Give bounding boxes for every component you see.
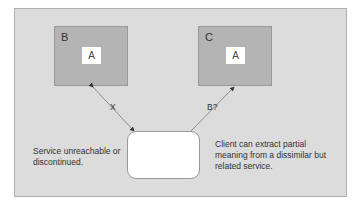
note-left: Service unreachable or discontinued. — [33, 146, 121, 168]
edge-label-x: X — [110, 102, 116, 112]
client-box — [127, 131, 200, 179]
note-right: Client can extract partial meaning from … — [215, 139, 340, 172]
edge-label-b-question: B? — [207, 102, 217, 112]
